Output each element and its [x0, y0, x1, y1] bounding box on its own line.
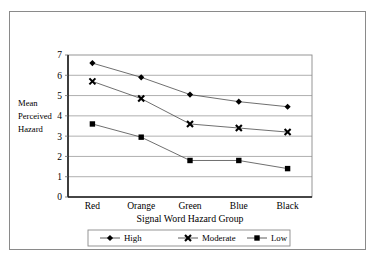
data-point-marker-high: [236, 99, 242, 105]
x-axis-category-labels-group: RedOrangeGreenBlueBlack: [85, 201, 299, 211]
y-axis-tick-label: 4: [57, 111, 62, 121]
data-point-marker-low: [285, 166, 290, 171]
y-axis-tick-label: 1: [57, 172, 62, 182]
y-axis-label-line-1: Mean: [18, 98, 38, 108]
y-axis-label-line-3: Hazard: [18, 124, 44, 134]
y-axis-tick-labels-group: 01234567: [57, 50, 62, 202]
data-point-marker-high: [89, 60, 95, 66]
data-point-marker-low: [90, 121, 95, 126]
data-point-marker-legend-low: [254, 235, 259, 240]
y-axis-tick-label: 2: [57, 152, 62, 162]
data-point-marker-high: [187, 91, 193, 97]
x-axis-category-label: Black: [277, 201, 299, 211]
y-axis-tick-label: 6: [57, 71, 62, 81]
data-point-marker-high: [285, 104, 291, 110]
plot-area-border: [68, 55, 312, 197]
x-axis-category-label: Red: [85, 201, 101, 211]
series-line-high: [92, 63, 287, 107]
data-point-marker-moderate: [89, 78, 95, 84]
data-point-marker-low: [236, 158, 241, 163]
y-axis-tick-label: 5: [57, 91, 62, 101]
data-point-marker-low: [187, 158, 192, 163]
y-axis-tick-label: 3: [57, 132, 62, 142]
legend-label-moderate: Moderate: [202, 233, 236, 243]
data-point-marker-low: [139, 134, 144, 139]
x-axis-category-label: Blue: [230, 201, 248, 211]
data-point-marker-moderate: [138, 96, 144, 102]
line-chart: 01234567 RedOrangeGreenBlueBlack Mean Pe…: [0, 0, 378, 263]
x-axis-title: Signal Word Hazard Group: [136, 213, 243, 224]
legend-label-low: Low: [271, 233, 288, 243]
y-axis-tick-label: 7: [57, 50, 62, 60]
y-axis-tick-label: 0: [57, 192, 62, 202]
figure-container: 01234567 RedOrangeGreenBlueBlack Mean Pe…: [0, 0, 378, 263]
x-axis-category-label: Orange: [127, 201, 155, 211]
y-axis-label-line-2: Perceived: [18, 111, 53, 121]
legend-label-high: High: [124, 233, 142, 243]
x-axis-category-label: Green: [178, 201, 201, 211]
